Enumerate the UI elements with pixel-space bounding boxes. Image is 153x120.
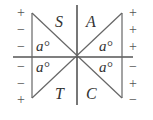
quadrant-label-a: A	[86, 14, 96, 30]
quadrant-label-c: C	[86, 86, 97, 102]
right-sign-1: +	[127, 6, 139, 20]
left-sign-1: +	[15, 6, 27, 20]
left-sign-6: +	[15, 93, 27, 107]
quadrant-label-s: S	[55, 14, 63, 30]
right-sign-4: −	[127, 60, 139, 74]
right-sign-6: −	[127, 93, 139, 107]
angle-label-bottom-right: a°	[99, 60, 113, 75]
angle-label-bottom-left: a°	[36, 60, 50, 75]
right-sign-3: +	[127, 40, 139, 54]
left-sign-5: −	[15, 77, 27, 91]
quadrant-label-t: T	[55, 86, 64, 102]
left-sign-4: −	[15, 60, 27, 74]
right-sign-2: +	[127, 23, 139, 37]
left-sign-3: −	[15, 40, 27, 54]
angle-label-top-right: a°	[99, 39, 113, 54]
left-sign-2: −	[15, 23, 27, 37]
right-sign-5: +	[127, 77, 139, 91]
angle-label-top-left: a°	[36, 39, 50, 54]
